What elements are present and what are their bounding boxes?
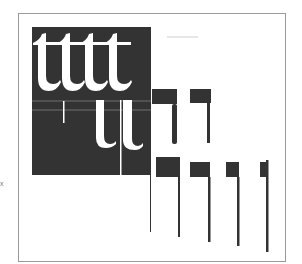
row-1-tail — [143, 27, 151, 85]
row-3-flags — [140, 150, 269, 252]
typographic-illustration — [0, 0, 302, 264]
row-2-flags — [152, 89, 211, 144]
